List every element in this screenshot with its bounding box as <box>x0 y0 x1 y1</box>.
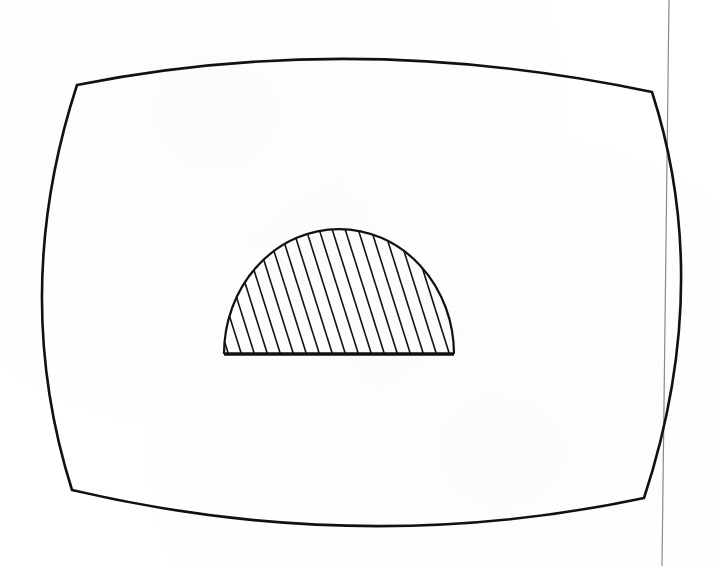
hatch-line <box>382 224 425 359</box>
hatch-line <box>161 224 204 359</box>
hatch-line <box>200 224 243 359</box>
crt-screen-outline <box>42 59 681 526</box>
hatch-line <box>252 224 295 359</box>
hatch-line <box>330 224 373 359</box>
hatch-line <box>226 224 269 359</box>
hatch-line <box>304 224 347 359</box>
hatch-line <box>317 224 360 359</box>
diagram-canvas <box>0 0 715 566</box>
hatch-line <box>291 224 334 359</box>
semicircle-hatching <box>161 224 516 359</box>
hatch-line <box>239 224 282 359</box>
hatch-line <box>265 224 308 359</box>
hatch-line <box>187 224 230 359</box>
hatch-line <box>343 224 386 359</box>
hatch-line <box>408 224 451 359</box>
hatch-line <box>369 224 412 359</box>
hatch-line <box>213 224 256 359</box>
hatch-line <box>174 224 217 359</box>
hatch-line <box>421 224 464 359</box>
hatch-line <box>473 224 516 359</box>
hatch-line <box>434 224 477 359</box>
hatch-line <box>395 224 438 359</box>
hatch-line <box>460 224 503 359</box>
page-margin-line <box>662 0 669 566</box>
